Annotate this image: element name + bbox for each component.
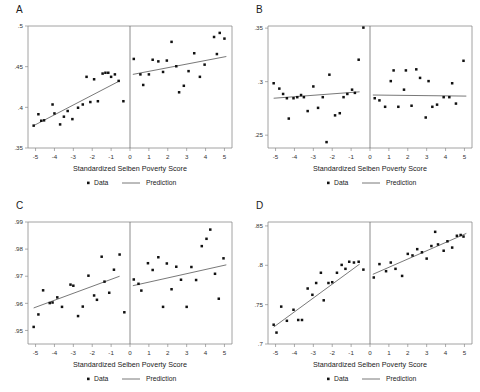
panel-c: C .95.96.97.98.99-5-4-3-2-1012345Standar… bbox=[0, 196, 240, 392]
data-point bbox=[462, 60, 465, 63]
x-tick-label: -2 bbox=[89, 153, 95, 160]
x-tick-label: 2 bbox=[166, 349, 170, 356]
data-point bbox=[315, 282, 318, 285]
x-tick-label: 1 bbox=[147, 153, 151, 160]
data-point bbox=[373, 97, 376, 100]
data-point bbox=[415, 68, 418, 71]
data-point bbox=[394, 268, 397, 271]
x-tick-label: -4 bbox=[292, 349, 298, 356]
data-point bbox=[424, 116, 427, 119]
data-point bbox=[416, 248, 419, 251]
x-tick-label: 5 bbox=[223, 153, 227, 160]
x-tick-label: -3 bbox=[71, 153, 77, 160]
data-point bbox=[442, 96, 445, 99]
data-point bbox=[218, 297, 221, 300]
x-tick-label: 3 bbox=[425, 349, 429, 356]
x-tick-label: 4 bbox=[204, 349, 208, 356]
y-tick-label: .7 bbox=[258, 340, 264, 347]
data-point bbox=[213, 36, 216, 39]
y-tick-label: .75 bbox=[254, 301, 263, 308]
data-point bbox=[40, 120, 43, 123]
data-point bbox=[108, 292, 111, 295]
data-point bbox=[348, 260, 351, 263]
data-point bbox=[122, 100, 125, 103]
data-point bbox=[421, 251, 424, 254]
legend-data-label: Data bbox=[334, 179, 349, 186]
panel-c-plot: .95.96.97.98.99-5-4-3-2-1012345Standardi… bbox=[0, 196, 240, 392]
x-tick-label: -1 bbox=[348, 153, 354, 160]
data-point bbox=[300, 94, 303, 97]
data-point bbox=[56, 296, 59, 299]
legend-prediction-label: Prediction bbox=[146, 179, 176, 186]
data-point bbox=[110, 76, 113, 79]
data-point bbox=[340, 264, 343, 267]
x-tick-label: 5 bbox=[463, 153, 467, 160]
data-point bbox=[89, 101, 92, 104]
data-point bbox=[451, 246, 454, 249]
data-point bbox=[344, 268, 347, 271]
data-point bbox=[187, 70, 190, 73]
data-point bbox=[203, 63, 206, 65]
data-point bbox=[133, 58, 136, 61]
data-point bbox=[32, 326, 35, 329]
data-point bbox=[288, 117, 291, 120]
data-point bbox=[140, 289, 143, 292]
y-tick-label: .4 bbox=[18, 104, 24, 111]
prediction-line bbox=[34, 81, 120, 126]
x-tick-label: 5 bbox=[223, 349, 227, 356]
data-point bbox=[456, 235, 459, 238]
data-point bbox=[339, 112, 342, 115]
x-axis-title: Standardized Selben Poverty Score bbox=[73, 360, 187, 369]
data-point bbox=[96, 299, 99, 302]
data-point bbox=[446, 240, 449, 243]
data-point bbox=[170, 288, 173, 291]
panel-d: D .7.75.8.85-5-4-3-2-1012345Standardized… bbox=[240, 196, 480, 392]
x-tick-label: -3 bbox=[71, 349, 77, 356]
y-tick-label: .35 bbox=[254, 24, 263, 31]
data-point bbox=[354, 92, 357, 95]
data-point bbox=[37, 313, 40, 316]
prediction-line bbox=[133, 57, 227, 75]
panel-a-plot: .35.4.45.5-5-4-3-2-1012345Standardized S… bbox=[0, 0, 240, 196]
data-point bbox=[317, 107, 320, 110]
data-point bbox=[373, 276, 376, 279]
data-point bbox=[142, 84, 145, 87]
data-point bbox=[147, 262, 150, 265]
x-tick-label: 4 bbox=[204, 153, 208, 160]
data-point bbox=[434, 231, 437, 234]
y-tick-label: .3 bbox=[258, 78, 264, 85]
legend-prediction-label: Prediction bbox=[146, 375, 176, 382]
y-tick-label: .96 bbox=[14, 300, 23, 307]
x-tick-label: 1 bbox=[147, 349, 151, 356]
y-tick-label: .99 bbox=[14, 218, 23, 225]
data-point bbox=[201, 245, 204, 248]
data-point bbox=[306, 110, 309, 113]
x-tick-label: 3 bbox=[185, 349, 189, 356]
legend-data-label: Data bbox=[334, 375, 349, 382]
panel-a: A .35.4.45.5-5-4-3-2-1012345Standardized… bbox=[0, 0, 240, 196]
data-point bbox=[166, 262, 169, 265]
data-point bbox=[419, 77, 422, 80]
data-point bbox=[183, 85, 186, 88]
x-tick-label: -4 bbox=[52, 153, 58, 160]
prediction-line bbox=[274, 264, 360, 327]
x-tick-label: 4 bbox=[444, 349, 448, 356]
x-axis-title: Standardized Selben Poverty Score bbox=[313, 164, 427, 173]
x-axis-title: Standardized Selben Poverty Score bbox=[73, 164, 187, 173]
data-point bbox=[104, 72, 107, 75]
x-tick-label: 2 bbox=[406, 349, 410, 356]
x-tick-label: 2 bbox=[166, 153, 170, 160]
figure-container: A .35.4.45.5-5-4-3-2-1012345Standardized… bbox=[0, 0, 480, 392]
data-point bbox=[93, 294, 96, 297]
data-point bbox=[278, 87, 281, 90]
panel-b-plot: .25.3.35-5-4-3-2-1012345Standardized Sel… bbox=[240, 0, 480, 196]
data-point bbox=[66, 110, 69, 113]
data-point bbox=[37, 113, 40, 116]
y-tick-label: .35 bbox=[14, 144, 23, 151]
x-tick-label: 0 bbox=[128, 153, 132, 160]
x-tick-label: 0 bbox=[368, 349, 372, 356]
data-point bbox=[205, 238, 208, 241]
data-point bbox=[42, 289, 45, 292]
x-tick-label: 3 bbox=[185, 153, 189, 160]
legend-prediction-label: Prediction bbox=[386, 375, 416, 382]
